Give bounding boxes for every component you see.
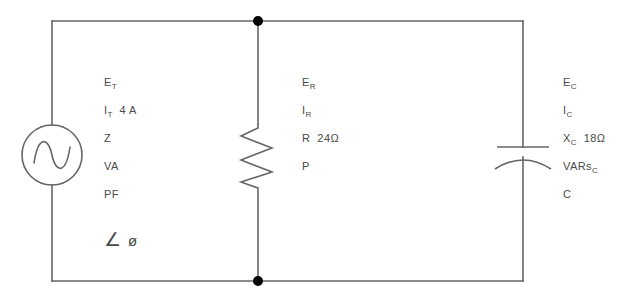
label-total-voltage: ET — [104, 76, 124, 91]
label-subscript: C — [592, 166, 598, 175]
circuit-schematic — [0, 0, 635, 305]
label-symbol: VARs — [563, 160, 592, 172]
label-subscript: C — [571, 138, 577, 147]
junction-node-bottom — [253, 276, 263, 286]
label-resistor-current: IR — [302, 104, 318, 119]
label-reactive-power: VARsC — [563, 160, 605, 175]
label-value: 24Ω — [317, 132, 339, 144]
label-impedance: Z — [104, 132, 118, 147]
angle-icon: ∠ — [104, 229, 121, 250]
label-resistance: R24Ω — [302, 132, 339, 147]
label-symbol: PF — [104, 188, 119, 200]
label-subscript: C — [571, 82, 577, 91]
junction-node-top — [253, 16, 263, 26]
label-resistor-voltage: ER — [302, 76, 323, 91]
label-subscript: T — [107, 110, 112, 119]
label-capacitive-reactance: XC18Ω — [563, 132, 605, 147]
label-true-power: P — [302, 160, 317, 175]
label-subscript: T — [112, 82, 117, 91]
label-symbol: X — [563, 132, 571, 144]
label-apparent-power: VA — [104, 160, 126, 175]
circuit-diagram-canvas: ET IT4 A Z VA PF ∠ø ER IR R24Ω P — [0, 0, 635, 305]
label-symbol: E — [563, 76, 571, 88]
label-value: 4 A — [120, 104, 137, 116]
ac-voltage-source-symbol — [22, 125, 82, 185]
label-symbol: C — [563, 188, 571, 200]
label-symbol: R — [302, 132, 310, 144]
label-symbol: Z — [104, 132, 111, 144]
label-capacitor-current: IC — [563, 104, 579, 119]
label-subscript: R — [305, 110, 311, 119]
label-power-factor: PF — [104, 188, 126, 203]
label-total-current: IT4 A — [104, 104, 137, 119]
label-subscript: C — [566, 110, 572, 119]
label-capacitor-voltage: EC — [563, 76, 584, 91]
label-capacitance: C — [563, 188, 578, 203]
label-phase-angle: ∠ø — [104, 228, 137, 251]
label-subscript: R — [310, 82, 316, 91]
label-symbol: VA — [104, 160, 119, 172]
resistor-symbol — [241, 124, 272, 188]
label-symbol: E — [302, 76, 310, 88]
label-value: 18Ω — [584, 132, 606, 144]
label-symbol: E — [104, 76, 112, 88]
label-symbol: P — [302, 160, 310, 172]
phi-symbol: ø — [128, 232, 137, 249]
